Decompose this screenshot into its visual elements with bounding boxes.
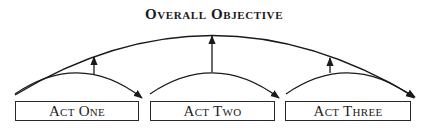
act-three-arc — [286, 73, 414, 98]
act-one-box: Act One — [15, 101, 139, 121]
diagram-title: Overall Objective — [0, 6, 428, 23]
overall-arc — [15, 35, 415, 97]
story-structure-diagram: Overall Objective Act One Act Two Act Th… — [0, 0, 428, 132]
act-one-arc — [15, 73, 142, 98]
act-two-arc — [150, 73, 279, 98]
act-three-box: Act Three — [285, 101, 411, 121]
act-two-box: Act Two — [150, 101, 275, 121]
